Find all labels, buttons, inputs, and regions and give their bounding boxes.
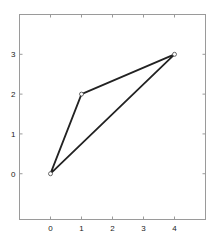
axes-frame — [20, 15, 206, 220]
x-tick-label: 1 — [79, 224, 84, 233]
x-tick-label: 3 — [141, 224, 146, 233]
y-tick-label: 2 — [11, 90, 16, 99]
x-tick-label: 2 — [110, 224, 115, 233]
series-layer — [49, 52, 177, 175]
line-plot: 01234 0123 — [0, 0, 214, 237]
y-tick-label: 3 — [11, 50, 16, 59]
data-point-marker — [173, 52, 177, 56]
y-axis-tick-labels: 0123 — [11, 50, 16, 178]
series-line — [51, 54, 175, 173]
data-point-marker — [80, 92, 84, 96]
x-axis-tick-labels: 01234 — [48, 224, 177, 233]
tick-marks — [20, 15, 206, 220]
x-tick-label: 4 — [172, 224, 177, 233]
y-tick-label: 1 — [11, 130, 16, 139]
x-tick-label: 0 — [48, 224, 53, 233]
y-tick-label: 0 — [11, 170, 16, 179]
chart: 01234 0123 — [0, 0, 214, 237]
data-point-marker — [49, 172, 53, 176]
